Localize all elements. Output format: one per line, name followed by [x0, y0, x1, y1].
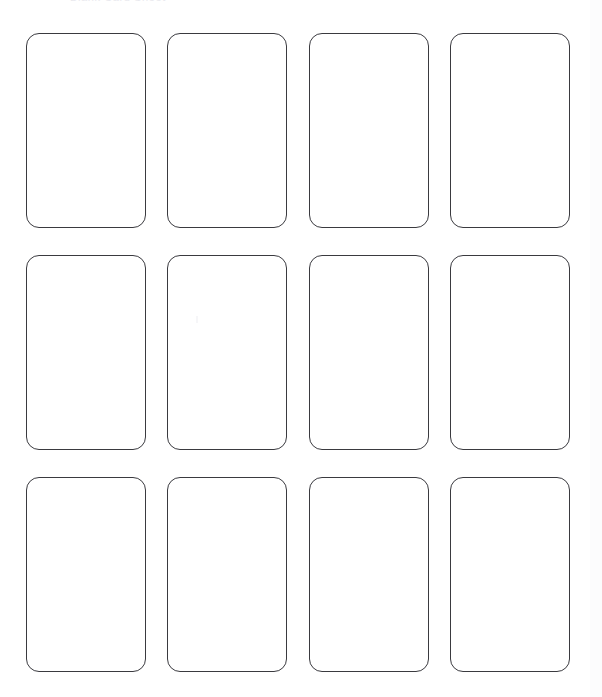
- card-item[interactable]: [26, 477, 146, 672]
- card-grid: [26, 33, 570, 672]
- card-item[interactable]: [309, 477, 429, 672]
- page-right-edge-tint: [590, 0, 602, 697]
- card-item[interactable]: [309, 255, 429, 450]
- card-item[interactable]: [450, 33, 570, 228]
- card-item[interactable]: [450, 477, 570, 672]
- page-header: Blank Card Sheet: [70, 0, 310, 5]
- card-item[interactable]: [167, 33, 287, 228]
- card-item[interactable]: [309, 33, 429, 228]
- page-title: Blank Card Sheet: [70, 0, 310, 4]
- card-item[interactable]: [450, 255, 570, 450]
- page-canvas: Blank Card Sheet: [0, 0, 602, 697]
- card-item[interactable]: [167, 477, 287, 672]
- card-item[interactable]: [26, 255, 146, 450]
- card-item[interactable]: [167, 255, 287, 450]
- card-item[interactable]: [26, 33, 146, 228]
